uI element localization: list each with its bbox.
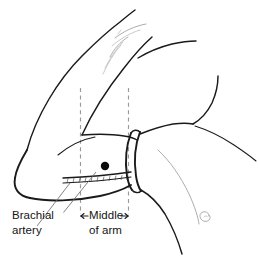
middle-of-arm-label-line2: of arm	[89, 224, 122, 236]
middle-of-arm-label-line1: Middle	[89, 209, 123, 221]
anatomy-diagram: Blood pressure cuff placement on upper a…	[0, 0, 258, 256]
brachial-artery-dot	[101, 162, 109, 170]
brachial-artery-label-line1: Brachial	[12, 209, 54, 221]
brachial-artery-label-line2: artery	[12, 224, 42, 236]
figure-root: Blood pressure cuff placement on upper a…	[0, 0, 258, 256]
